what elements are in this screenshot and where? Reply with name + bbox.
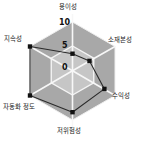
data-point-sojaebonseong: [87, 59, 91, 63]
data-point-jadonghwa: [28, 93, 32, 97]
data-point-jisokseong: [28, 44, 32, 48]
radar-plot-area: [0, 0, 145, 144]
data-point-suikseong: [102, 87, 106, 91]
axis-label-jeowiheomseong: 저위험성: [57, 128, 81, 134]
axis-label-yongiseong: 용이성: [59, 4, 77, 10]
data-point-jeowiheomseong: [70, 110, 74, 114]
scale-tick-0: 0: [62, 64, 68, 72]
scale-tick-10: 10: [59, 19, 70, 27]
scale-tick-5: 5: [62, 42, 68, 50]
data-point-yongiseong: [70, 52, 74, 56]
radar-chart: 10 5 0 용이성 소재본성 수익성 저위험성 자동화 정도 지속성: [0, 0, 145, 144]
axis-label-sojaebonseong: 소재본성: [108, 37, 132, 43]
axis-label-jadonghwa-jeongdo: 자동화 정도: [3, 104, 34, 110]
axis-label-jisokseong: 지속성: [4, 36, 22, 42]
axis-label-suikseong: 수익성: [112, 93, 130, 99]
